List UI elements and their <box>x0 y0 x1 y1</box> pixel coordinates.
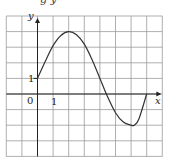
function-graph: y x 0 1 1 <box>0 0 169 167</box>
x-axis-label: x <box>155 95 161 106</box>
x-tick-label-1: 1 <box>51 96 57 107</box>
origin-label: 0 <box>27 95 33 106</box>
grid <box>6 16 162 156</box>
axes <box>6 18 161 156</box>
y-tick-label-1: 1 <box>28 73 34 84</box>
y-axis-label: y <box>27 10 34 21</box>
